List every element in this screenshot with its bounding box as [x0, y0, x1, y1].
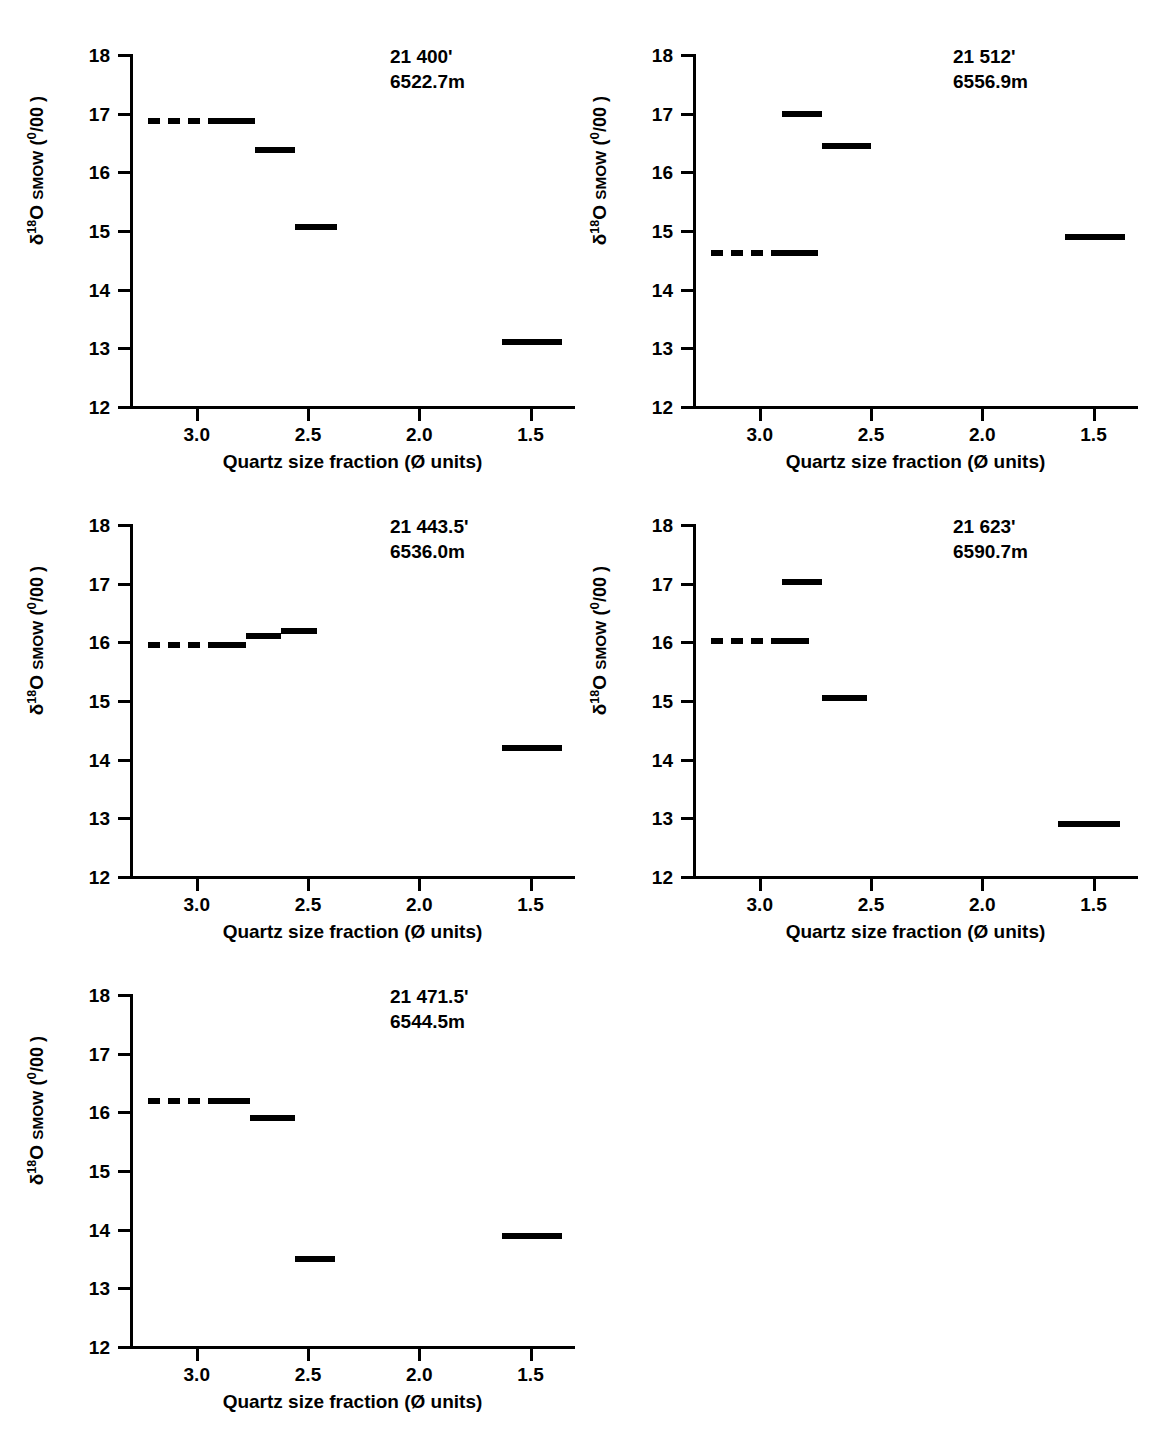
data-bar: [782, 579, 822, 585]
y-axis-tick-label: 18: [64, 46, 110, 65]
panel-title: 21 512'6556.9m: [953, 44, 1028, 94]
panel-depth-feet: 21 471.5': [390, 984, 468, 1009]
y-axis-tick-label: 13: [627, 809, 673, 828]
y-axis-tick: [118, 113, 131, 116]
y-axis-tick: [681, 817, 694, 820]
x-axis-tick-label: 3.0: [162, 425, 232, 444]
x-axis-tick-label: 2.5: [273, 425, 343, 444]
y-axis-tick-label: 13: [64, 809, 110, 828]
y-axis-tick: [681, 700, 694, 703]
y-axis-tick: [118, 1346, 131, 1349]
panel-title: 21 443.5'6536.0m: [390, 514, 468, 564]
y-axis-tick: [118, 347, 131, 350]
y-axis-title: δ18O SMOW (0/00 ): [588, 511, 609, 771]
y-axis-tick: [118, 700, 131, 703]
y-axis-tick-label: 13: [64, 339, 110, 358]
y-axis-tick: [118, 1053, 131, 1056]
data-bar: [502, 339, 562, 345]
y-axis-tick: [118, 1111, 131, 1114]
x-axis-tick: [981, 879, 984, 891]
y-axis-tick: [118, 994, 131, 997]
x-axis-tick-label: 1.5: [496, 425, 566, 444]
panel-depth-meters: 6536.0m: [390, 539, 468, 564]
x-axis-tick-label: 2.0: [947, 425, 1017, 444]
data-bar: [778, 250, 818, 256]
x-axis-tick-label: 3.0: [725, 895, 795, 914]
y-axis-tick: [118, 1287, 131, 1290]
y-axis-tick-label: 14: [64, 751, 110, 770]
y-axis-tick-label: 18: [627, 516, 673, 535]
plot-area: 181716151413123.02.52.01.5δ18O SMOW (0/0…: [0, 940, 585, 1380]
y-axis-tick-label: 14: [627, 281, 673, 300]
y-axis-tick: [681, 171, 694, 174]
y-axis-tick-label: 18: [64, 986, 110, 1005]
y-axis-tick-label: 14: [627, 751, 673, 770]
y-axis-tick-label: 14: [64, 1221, 110, 1240]
data-bar: [822, 695, 867, 701]
data-bar: [250, 1115, 295, 1121]
x-axis-title: Quartz size fraction (Ø units): [130, 1392, 575, 1411]
x-axis-tick: [530, 409, 533, 421]
x-axis-tick: [307, 879, 310, 891]
y-axis-title: δ18O SMOW (0/00 ): [25, 511, 46, 771]
data-bar: [502, 745, 562, 751]
x-axis-tick-label: 2.0: [947, 895, 1017, 914]
x-axis-title: Quartz size fraction (Ø units): [693, 452, 1138, 471]
y-axis-tick-label: 17: [627, 575, 673, 594]
plot-area: 181716151413123.02.52.01.5δ18O SMOW (0/0…: [563, 0, 1148, 440]
x-axis-tick: [307, 409, 310, 421]
data-bar: [255, 147, 295, 153]
y-axis-tick-label: 13: [627, 339, 673, 358]
y-axis-tick-label: 15: [64, 222, 110, 241]
y-axis-tick-label: 12: [64, 1338, 110, 1357]
panel-depth-feet: 21 512': [953, 44, 1028, 69]
data-bar-dashed: [148, 118, 215, 124]
y-axis-tick-label: 16: [627, 163, 673, 182]
x-axis-tick: [418, 409, 421, 421]
x-axis-tick-label: 3.0: [162, 1365, 232, 1384]
y-axis-tick-label: 16: [64, 633, 110, 652]
y-axis-tick: [118, 1229, 131, 1232]
y-axis-tick-label: 18: [627, 46, 673, 65]
x-axis-tick: [307, 1349, 310, 1361]
y-axis-tick: [118, 524, 131, 527]
x-axis-tick: [1093, 409, 1096, 421]
chart-panel: 181716151413123.02.52.01.5δ18O SMOW (0/0…: [0, 940, 585, 1420]
data-bar-dashed: [711, 250, 778, 256]
data-bar: [502, 1233, 562, 1239]
panel-depth-meters: 6590.7m: [953, 539, 1028, 564]
y-axis-tick: [118, 230, 131, 233]
x-axis-tick-label: 3.0: [725, 425, 795, 444]
data-bar: [295, 1256, 335, 1262]
x-axis-tick-label: 2.5: [273, 895, 343, 914]
y-axis-tick: [681, 583, 694, 586]
figure-panel-grid: 181716151413123.02.52.01.5δ18O SMOW (0/0…: [0, 0, 1170, 1440]
data-bar: [822, 143, 871, 149]
y-axis-tick: [681, 289, 694, 292]
y-axis-tick-label: 15: [627, 222, 673, 241]
x-axis-tick-label: 3.0: [162, 895, 232, 914]
data-bar: [778, 638, 809, 644]
plot-area: 181716151413123.02.52.01.5δ18O SMOW (0/0…: [563, 470, 1148, 910]
x-axis-tick-label: 1.5: [1059, 895, 1129, 914]
x-axis-tick: [870, 409, 873, 421]
y-axis-tick: [681, 230, 694, 233]
y-axis-title: δ18O SMOW (0/00 ): [25, 41, 46, 301]
x-axis-tick-label: 2.5: [836, 895, 906, 914]
x-axis-tick: [981, 409, 984, 421]
y-axis-tick: [118, 583, 131, 586]
y-axis-tick-label: 17: [627, 105, 673, 124]
y-axis-tick-label: 16: [64, 1103, 110, 1122]
y-axis-title: δ18O SMOW (0/00 ): [588, 41, 609, 301]
data-bar: [215, 1098, 251, 1104]
y-axis-tick-label: 12: [64, 398, 110, 417]
panel-title: 21 623'6590.7m: [953, 514, 1028, 564]
x-axis-tick-label: 2.0: [384, 425, 454, 444]
y-axis-tick: [681, 113, 694, 116]
chart-panel: 181716151413123.02.52.01.5δ18O SMOW (0/0…: [563, 470, 1148, 950]
y-axis-tick: [118, 876, 131, 879]
y-axis-tick-label: 14: [64, 281, 110, 300]
y-axis-title: δ18O SMOW (0/00 ): [25, 981, 46, 1241]
x-axis-tick-label: 2.5: [273, 1365, 343, 1384]
data-bar: [281, 628, 317, 634]
